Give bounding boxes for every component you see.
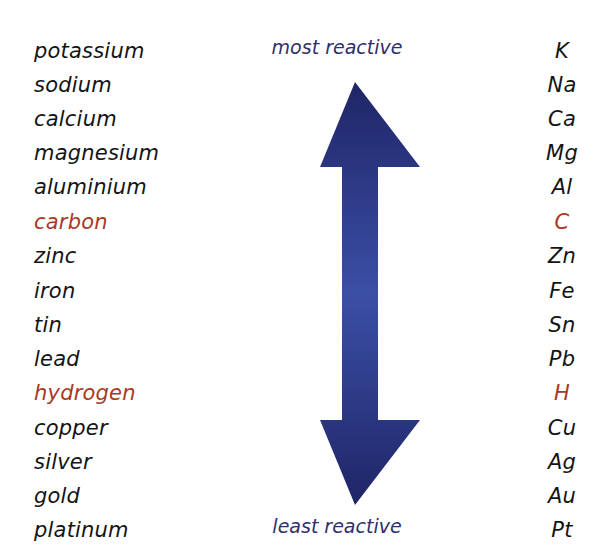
element-symbol: Au [532, 483, 592, 509]
element-symbol: Ag [532, 449, 592, 475]
element-symbol: H [532, 380, 592, 406]
element-row: gold [34, 483, 80, 509]
element-name: aluminium [34, 175, 147, 199]
element-row: hydrogen [34, 380, 136, 406]
element-symbol: Mg [532, 140, 592, 166]
element-symbol: Sn [532, 312, 592, 338]
element-row: sodium [34, 72, 112, 98]
element-symbol: Pt [532, 517, 592, 543]
element-name: iron [34, 279, 75, 303]
element-name: platinum [34, 518, 129, 542]
element-name: sodium [34, 73, 112, 97]
element-name: lead [34, 347, 80, 371]
element-symbol: Fe [532, 278, 592, 304]
element-row: aluminium [34, 174, 147, 200]
element-row: lead [34, 346, 80, 372]
element-symbol: Cu [532, 415, 592, 441]
element-symbol: C [532, 209, 592, 235]
element-row: potassium [34, 38, 145, 64]
element-row: magnesium [34, 140, 159, 166]
element-name: copper [34, 416, 108, 440]
element-name: zinc [34, 244, 77, 268]
element-name: magnesium [34, 141, 159, 165]
element-row: carbon [34, 209, 108, 235]
element-name: carbon [34, 210, 108, 234]
element-name: tin [34, 313, 62, 337]
element-row: copper [34, 415, 108, 441]
element-row: calcium [34, 106, 117, 132]
element-row: tin [34, 312, 62, 338]
element-symbol: K [532, 38, 592, 64]
element-symbol: Zn [532, 243, 592, 269]
element-row: silver [34, 449, 92, 475]
element-symbol: Pb [532, 346, 592, 372]
element-symbol: Na [532, 72, 592, 98]
element-name: calcium [34, 107, 117, 131]
element-name: hydrogen [34, 381, 136, 405]
element-name: gold [34, 484, 80, 508]
element-row: platinum [34, 517, 129, 543]
element-name: silver [34, 450, 92, 474]
element-name: potassium [34, 39, 145, 63]
element-symbol: Ca [532, 106, 592, 132]
element-row: zinc [34, 243, 77, 269]
element-symbol: Al [532, 174, 592, 200]
element-row: iron [34, 278, 75, 304]
